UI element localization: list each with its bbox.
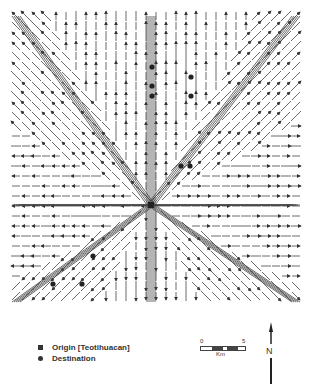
scale-unit: Km	[216, 351, 225, 357]
destination-marker	[149, 64, 154, 69]
destination-marker	[149, 83, 154, 88]
scale-end: 5	[242, 338, 245, 344]
legend-destination-label: Destination	[52, 354, 96, 363]
scale-start: 0	[200, 338, 203, 344]
flow-network-map	[0, 0, 313, 320]
destination-marker	[50, 281, 55, 286]
north-arrow: N	[264, 322, 278, 384]
destination-marker	[79, 281, 84, 286]
destination-marker	[178, 163, 183, 168]
origin-marker	[148, 202, 154, 208]
legend: Origin [Teotihuacan] Destination	[38, 342, 130, 364]
destination-marker	[187, 163, 192, 168]
legend-origin-label: Origin [Teotihuacan]	[52, 343, 130, 352]
destination-marker	[188, 74, 193, 79]
origin-square-icon	[38, 345, 43, 350]
scale-bar: 0 5 Km	[200, 338, 246, 358]
destination-dot-icon	[38, 356, 43, 361]
north-label: N	[266, 346, 273, 356]
destination-marker	[90, 253, 95, 258]
destination-marker	[149, 93, 154, 98]
destination-marker	[188, 93, 193, 98]
